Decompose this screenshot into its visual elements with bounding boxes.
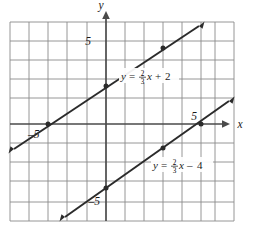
y-axis-name-label: y bbox=[97, 0, 104, 12]
x-axis-name-label: x bbox=[236, 118, 243, 130]
equation-lower-lhs: y bbox=[152, 159, 158, 171]
equation-upper-lhs: y bbox=[120, 70, 126, 82]
x-axis-arrow-icon bbox=[222, 120, 230, 128]
line-lower-point-marker bbox=[161, 146, 166, 151]
line-upper-point-marker bbox=[46, 122, 51, 127]
equation-upper-variable: x bbox=[146, 70, 152, 82]
graph-svg: x y 5 –5 –5 5 y = 2 bbox=[0, 0, 256, 231]
equation-lower-constant: 4 bbox=[197, 159, 203, 171]
equation-label-upper: y = 2 3 x + 2 bbox=[119, 68, 179, 86]
x-tick-label-positive-5: 5 bbox=[191, 110, 197, 122]
y-axis-arrow-icon bbox=[102, 11, 110, 19]
line-lower-point-marker bbox=[199, 122, 204, 127]
line-upper-point-marker bbox=[104, 84, 109, 89]
line-upper-point-marker bbox=[161, 46, 166, 51]
line-upper-arrow-start-icon bbox=[9, 146, 15, 153]
equation-upper-denominator: 3 bbox=[141, 78, 145, 86]
equation-label-lower: y = 2 3 x – 4 bbox=[151, 157, 213, 175]
equation-lower-numerator: 2 bbox=[173, 159, 177, 167]
equation-lower-equals: = bbox=[161, 159, 167, 171]
equation-lower-variable: x bbox=[178, 159, 184, 171]
coordinate-graph-figure: x y 5 –5 –5 5 y = 2 bbox=[0, 0, 256, 231]
equation-lower-operator: – bbox=[186, 159, 193, 171]
equation-upper-operator: + bbox=[155, 70, 161, 82]
equation-upper-numerator: 2 bbox=[141, 70, 145, 78]
equation-upper-constant: 2 bbox=[165, 70, 171, 82]
line-upper-arrow-end-icon bbox=[199, 22, 205, 29]
y-tick-label-positive-5: 5 bbox=[85, 35, 91, 47]
line-lower-point-marker bbox=[104, 186, 109, 191]
equation-lower-denominator: 3 bbox=[173, 167, 177, 175]
axes-group bbox=[10, 11, 230, 221]
line-lower-arrow-start-icon bbox=[60, 214, 66, 221]
equation-upper-equals: = bbox=[129, 70, 135, 82]
